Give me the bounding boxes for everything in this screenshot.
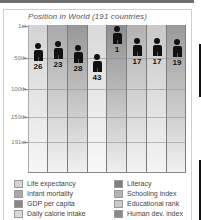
rank-marker-human-dev-index: 19 [170, 39, 184, 67]
legend-swatch [114, 210, 123, 218]
person-icon [133, 45, 142, 56]
rank-marker-life-expectancy: 26 [31, 43, 45, 71]
rank-marker-educational-rank: 17 [150, 38, 164, 66]
legend-swatch [114, 200, 123, 208]
person-icon [154, 38, 160, 44]
legend-label: Life expectancy [27, 180, 76, 188]
chart-title: Position in World (191 countries) [28, 12, 147, 21]
rank-marker-gdp-per-capita: 28 [71, 45, 85, 73]
plot-area: 26 23 28 43 1 17 17 19 [28, 25, 186, 173]
legend-label: Daily calorie intake [27, 210, 86, 218]
person-icon [174, 39, 180, 45]
legend-swatch [14, 190, 23, 198]
person-icon [54, 48, 63, 59]
rank-marker-infant-mortality: 23 [51, 41, 65, 69]
rank-marker-daily-calorie-intake: 43 [90, 54, 104, 82]
person-icon [153, 45, 162, 56]
person-icon [75, 45, 81, 51]
rank-value: 43 [90, 73, 104, 82]
legend-swatch [14, 180, 23, 188]
rank-value: 17 [130, 57, 144, 66]
top-band [0, 0, 194, 3]
legend-label: Schooling index [127, 190, 176, 198]
rank-value: 23 [51, 60, 65, 69]
person-icon [35, 43, 41, 49]
person-icon [55, 41, 61, 47]
legend-swatch [114, 180, 123, 188]
rank-value: 19 [170, 58, 184, 67]
legend-swatch [114, 190, 123, 198]
gridline [28, 117, 186, 118]
person-icon [114, 26, 120, 32]
person-icon [173, 46, 182, 57]
edge-bar [199, 44, 201, 97]
rank-value: 28 [71, 64, 85, 73]
person-icon [93, 61, 102, 72]
edge-bar [199, 160, 201, 220]
legend-label: Human dev. index [127, 210, 183, 218]
rank-value: 17 [150, 57, 164, 66]
rank-value: 1 [110, 45, 124, 54]
legend-label: GDP per capita [27, 200, 75, 208]
legend-label: Literacy [127, 180, 152, 188]
person-icon [34, 50, 43, 61]
rank-value: 26 [31, 62, 45, 71]
gridline [28, 142, 186, 143]
person-icon [134, 38, 140, 44]
column-daily-calorie-intake [88, 25, 107, 172]
gridline [28, 89, 186, 90]
rank-marker-literacy: 1 [110, 26, 124, 54]
person-icon [74, 52, 83, 63]
legend-swatch [14, 200, 23, 208]
legend-label: Infant mortality [27, 190, 73, 198]
legend-swatch [14, 210, 23, 218]
person-icon [113, 33, 122, 44]
rank-marker-schooling-index: 17 [130, 38, 144, 66]
legend-label: Educational rank [127, 200, 179, 208]
person-icon [94, 54, 100, 60]
